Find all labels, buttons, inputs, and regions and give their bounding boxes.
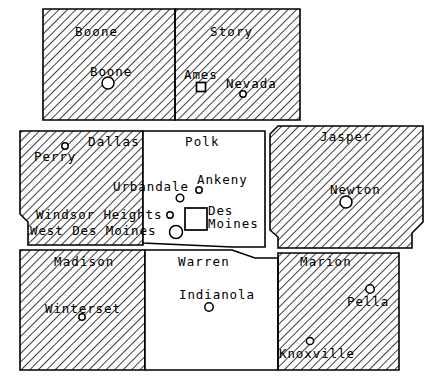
city-label-perry: Perry xyxy=(34,149,76,164)
county-label-madison: Madison xyxy=(54,254,114,269)
city-marker-circle-icon[interactable] xyxy=(167,212,173,218)
city-marker-circle-icon[interactable] xyxy=(340,196,352,208)
city-marker-square-icon[interactable] xyxy=(197,83,206,92)
city-windsor-heights[interactable]: Windsor Heights xyxy=(36,207,173,222)
city-marker-circle-icon[interactable] xyxy=(196,187,202,193)
county-label-boone: Boone xyxy=(75,24,118,39)
county-label-marion: Marion xyxy=(300,254,352,269)
city-label-boone-city: Boone xyxy=(90,64,132,79)
county-label-dallas: Dallas xyxy=(88,134,140,149)
county-label-jasper: Jasper xyxy=(320,129,372,144)
city-marker-circle-icon[interactable] xyxy=(205,303,213,311)
city-label-windsor-heights: Windsor Heights xyxy=(36,207,162,222)
city-label-knoxville: Knoxville xyxy=(279,346,355,361)
county-label-polk: Polk xyxy=(185,134,220,149)
city-label-west-des-moines: West Des Moines xyxy=(30,223,156,238)
county-label-story: Story xyxy=(210,24,253,39)
city-marker-circle-icon[interactable] xyxy=(366,285,374,293)
city-label-ankeny: Ankeny xyxy=(197,172,248,187)
city-marker-circle-icon[interactable] xyxy=(240,91,246,97)
city-label-pella: Pella xyxy=(347,294,389,309)
city-label-nevada: Nevada xyxy=(226,76,277,91)
city-label-indianola: Indianola xyxy=(179,287,255,302)
county-label-warren: Warren xyxy=(178,254,230,269)
county-map: BooneStoryDallasPolkJasperMadisonWarrenM… xyxy=(0,0,443,380)
city-marker-circle-icon[interactable] xyxy=(176,194,184,202)
city-label-winterset: Winterset xyxy=(45,301,121,316)
city-label-urbandale: Urbandale xyxy=(113,179,189,194)
city-label-line-2: Moines xyxy=(208,216,259,231)
city-marker-square-icon[interactable] xyxy=(185,208,207,230)
city-marker-circle-icon[interactable] xyxy=(306,337,313,344)
city-marker-circle-icon[interactable] xyxy=(170,226,183,239)
city-label-newton: Newton xyxy=(330,182,381,197)
city-label-ames: Ames xyxy=(184,67,218,82)
map-canvas: BooneStoryDallasPolkJasperMadisonWarrenM… xyxy=(0,0,443,380)
